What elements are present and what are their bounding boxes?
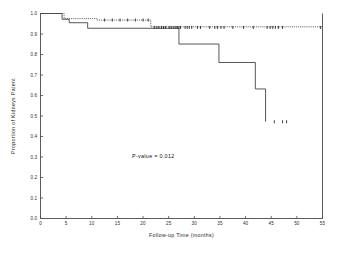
y-tick-label: 0.5	[30, 114, 37, 119]
y-tick-label: 0.3	[30, 155, 37, 160]
x-tick-label: 30	[192, 221, 198, 226]
pvalue-annotation: P-value = 0.012	[132, 153, 174, 159]
x-tick-label: 50	[294, 221, 300, 226]
x-tick-label: 20	[140, 221, 146, 226]
y-axis-title: Proportion of Kidneys Patent	[10, 78, 16, 154]
y-tick-label: 0.7	[30, 73, 37, 78]
x-tick-label: 15	[115, 221, 121, 226]
y-tick-label: 1.0	[30, 11, 37, 16]
x-tick-label: 25	[166, 221, 172, 226]
x-tick-label: 35	[217, 221, 223, 226]
x-tick-label: 45	[269, 221, 275, 226]
x-axis-title: Follow-up Time (months)	[149, 232, 214, 238]
x-tick-label: 5	[65, 221, 68, 226]
x-tick-label: 40	[243, 221, 249, 226]
x-tick-label: 55	[320, 221, 326, 226]
x-tick-label: 0	[39, 221, 42, 226]
y-tick-label: 0.0	[30, 216, 37, 221]
y-tick-label: 0.1	[30, 196, 37, 201]
chart-figure: 0510152025303540455055 0.00.10.20.30.40.…	[0, 0, 339, 259]
y-tick-label: 0.2	[30, 175, 37, 180]
x-tick-label: 10	[89, 221, 95, 226]
kaplan-meier-plot: 0510152025303540455055 0.00.10.20.30.40.…	[0, 0, 339, 259]
y-tick-label: 0.9	[30, 32, 37, 37]
y-tick-label: 0.8	[30, 52, 37, 57]
y-tick-label: 0.4	[30, 134, 37, 139]
y-tick-label: 0.6	[30, 93, 37, 98]
